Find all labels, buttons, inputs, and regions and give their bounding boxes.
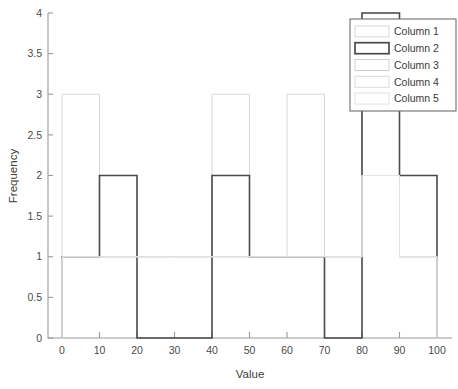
legend-label-4[interactable]: Column 4 — [394, 76, 439, 88]
x-tick-label: 30 — [169, 344, 181, 356]
x-tick-label: 20 — [131, 344, 143, 356]
legend-swatch-2[interactable] — [355, 43, 389, 54]
x-axis-title: Value — [236, 368, 265, 380]
legend-label-5[interactable]: Column 5 — [394, 92, 439, 104]
x-tick-label: 70 — [319, 344, 331, 356]
legend-swatch-1[interactable] — [355, 26, 389, 37]
legend-label-1[interactable]: Column 1 — [394, 25, 439, 37]
x-tick-label: 60 — [281, 344, 293, 356]
legend-label-2[interactable]: Column 2 — [394, 42, 439, 54]
x-tick-label: 80 — [356, 344, 368, 356]
x-tick-label: 90 — [394, 344, 406, 356]
x-tick-label: 100 — [428, 344, 446, 356]
y-tick-label: 0.5 — [27, 291, 42, 303]
y-tick-label: 4 — [36, 7, 42, 19]
y-tick-label: 2 — [36, 169, 42, 181]
x-tick-label: 50 — [244, 344, 256, 356]
y-tick-label: 3 — [36, 88, 42, 100]
x-tick-label: 0 — [59, 344, 65, 356]
y-tick-label: 0 — [36, 332, 42, 344]
x-tick-label: 10 — [94, 344, 106, 356]
x-tick-label: 40 — [206, 344, 218, 356]
y-tick-label: 3.5 — [27, 47, 42, 59]
legend-swatch-3[interactable] — [355, 60, 389, 71]
legend-label-3[interactable]: Column 3 — [394, 59, 439, 71]
y-tick-label: 2.5 — [27, 129, 42, 141]
y-tick-label: 1 — [36, 250, 42, 262]
legend-swatch-5[interactable] — [355, 93, 389, 104]
x-axis-ticks: 0102030405060708090100 — [59, 332, 446, 356]
y-axis-title: Frequency — [7, 149, 19, 204]
histogram-figure: 00.511.522.533.54 0102030405060708090100… — [0, 0, 458, 389]
y-tick-label: 1.5 — [27, 210, 42, 222]
chart-legend[interactable]: Column 1Column 2Column 3Column 4Column 5 — [350, 19, 456, 111]
chart-canvas: 00.511.522.533.54 0102030405060708090100… — [0, 0, 458, 389]
legend-swatch-4[interactable] — [355, 76, 389, 87]
y-axis-ticks: 00.511.522.533.54 — [27, 7, 53, 344]
